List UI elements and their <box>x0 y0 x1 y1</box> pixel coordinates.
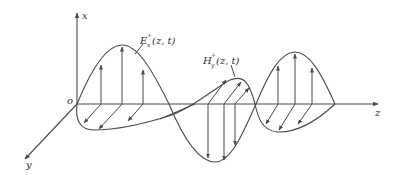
svg-text:(z, t): (z, t) <box>152 35 176 46</box>
em-wave-diagram: x z y o E + x (z, t) H + y (z, t) <box>0 0 395 175</box>
e-field-label: E + x (z, t) <box>139 31 176 48</box>
y-axis <box>25 104 77 159</box>
x-axis-label: x <box>82 10 88 21</box>
origin-label: o <box>67 95 73 106</box>
h-field-wave <box>77 78 335 132</box>
svg-text:x: x <box>147 41 151 48</box>
axes <box>25 13 378 159</box>
h-field-wave-link <box>160 104 195 119</box>
y-axis-label: y <box>25 159 32 170</box>
h-field-label: H + y (z, t) <box>202 51 240 69</box>
svg-text:(z, t): (z, t) <box>216 55 240 66</box>
h-label-leader <box>231 65 235 77</box>
svg-text:y: y <box>210 61 215 69</box>
z-axis-label: z <box>374 107 381 118</box>
